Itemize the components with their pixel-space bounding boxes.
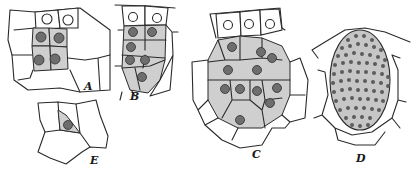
panel-a: A (8, 8, 110, 93)
panel-d: D (312, 28, 410, 165)
panel-b: B (115, 5, 178, 103)
panel-label-e: E (89, 154, 99, 167)
panel-label-b: B (129, 90, 139, 103)
panel-e: E (38, 100, 108, 167)
panel-label-d: D (355, 152, 366, 165)
panel-label-c: C (252, 148, 261, 161)
panel-c: C (192, 8, 308, 161)
figure-canvas: A B (0, 0, 420, 170)
panel-label-a: A (83, 80, 93, 93)
